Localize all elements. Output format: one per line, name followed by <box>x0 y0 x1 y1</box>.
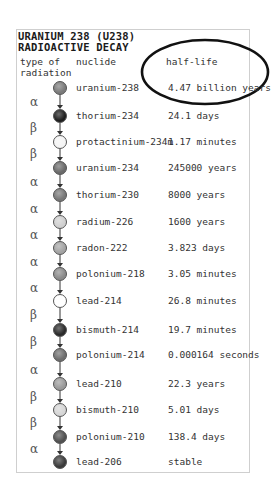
nuclide-name: uranium-238 <box>76 82 139 93</box>
decay-chain-graphics <box>0 0 280 499</box>
nuclide-icon <box>53 215 67 229</box>
nuclide-icon <box>53 403 67 417</box>
nuclide-name: lead-214 <box>76 295 122 306</box>
half-life-value: 4.47 billion years <box>168 82 271 93</box>
alpha-decay-label: α <box>30 364 38 376</box>
nuclide-name: bismuth-214 <box>76 324 139 335</box>
nuclide-name: thorium-234 <box>76 110 139 121</box>
half-life-value: 5.01 days <box>168 404 219 415</box>
nuclide-name: uranium-234 <box>76 162 139 173</box>
half-life-value: 24.1 days <box>168 110 219 121</box>
half-life-highlight-ellipse <box>142 40 268 104</box>
nuclide-icon <box>53 109 67 123</box>
alpha-decay-label: α <box>30 96 38 108</box>
beta-decay-label: β <box>30 336 37 348</box>
nuclide-name: bismuth-210 <box>76 404 139 415</box>
half-life-value: 8000 years <box>168 189 225 200</box>
nuclide-icon <box>53 161 67 175</box>
alpha-decay-label: α <box>30 282 38 294</box>
half-life-value: 3.05 minutes <box>168 268 237 279</box>
half-life-value: 245000 years <box>168 162 237 173</box>
nuclide-icon <box>53 294 67 308</box>
nuclide-icon <box>53 455 67 469</box>
alpha-decay-label: α <box>30 203 38 215</box>
half-life-value: 138.4 days <box>168 431 225 442</box>
nuclide-name: protactinium-234m <box>76 136 173 147</box>
half-life-value: 22.3 years <box>168 378 225 389</box>
beta-decay-label: β <box>30 148 37 160</box>
nuclide-name: polonium-210 <box>76 431 145 442</box>
nuclide-name: lead-206 <box>76 456 122 467</box>
half-life-value: 1600 years <box>168 216 225 227</box>
nuclide-icon <box>53 241 67 255</box>
half-life-value: 3.823 days <box>168 242 225 253</box>
nuclide-icon <box>53 267 67 281</box>
nuclide-icon <box>53 81 67 95</box>
alpha-decay-label: α <box>30 443 38 455</box>
alpha-decay-label: α <box>30 256 38 268</box>
half-life-value: 0.000164 seconds <box>168 349 260 360</box>
nuclide-name: polonium-218 <box>76 268 145 279</box>
half-life-value: 1.17 minutes <box>168 136 237 147</box>
nuclide-name: radon-222 <box>76 242 127 253</box>
nuclide-name: lead-210 <box>76 378 122 389</box>
nuclide-icon <box>53 135 67 149</box>
beta-decay-label: β <box>30 417 37 429</box>
alpha-decay-label: α <box>30 176 38 188</box>
nuclide-name: thorium-230 <box>76 189 139 200</box>
nuclide-name: polonium-214 <box>76 349 145 360</box>
nuclide-icon <box>53 377 67 391</box>
nuclide-icon <box>53 188 67 202</box>
half-life-value: 26.8 minutes <box>168 295 237 306</box>
nuclide-name: radium-226 <box>76 216 133 227</box>
beta-decay-label: β <box>30 391 37 403</box>
half-life-value: 19.7 minutes <box>168 324 237 335</box>
beta-decay-label: β <box>30 309 37 321</box>
nuclide-icon <box>53 323 67 337</box>
half-life-value: stable <box>168 456 202 467</box>
nuclide-icon <box>53 430 67 444</box>
nuclide-icon <box>53 348 67 362</box>
alpha-decay-label: α <box>30 229 38 241</box>
beta-decay-label: β <box>30 122 37 134</box>
